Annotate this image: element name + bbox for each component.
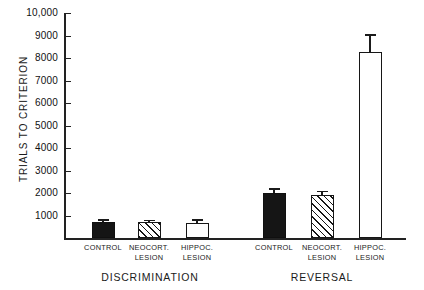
y-axis-tick-label: 10,000 <box>10 7 58 18</box>
bar-label-line1: HIPPOC. <box>354 243 386 252</box>
y-axis-tick <box>66 148 71 149</box>
group-label: REVERSAL <box>242 271 402 283</box>
plot-area <box>66 13 406 238</box>
y-axis-tick-label: 6000 <box>10 97 58 108</box>
bar <box>138 222 161 238</box>
y-axis-tick <box>66 81 71 82</box>
y-axis-tick-label: 8000 <box>10 52 58 63</box>
error-bar-cap <box>365 34 376 36</box>
bar-label-line1: CONTROL <box>84 243 122 252</box>
y-axis-tick-label: 4000 <box>10 142 58 153</box>
bar <box>311 195 334 238</box>
y-axis-tick-label: 1000 <box>10 210 58 221</box>
error-bar <box>359 34 382 52</box>
bar-label-line1: NEOCORT. <box>302 243 342 252</box>
y-axis-tick-label: 9000 <box>10 30 58 41</box>
y-axis-tick-label: 3000 <box>10 165 58 176</box>
y-axis-tick-label: 7000 <box>10 75 58 86</box>
error-bar-stem <box>369 34 371 52</box>
bar-label-line2: LESION <box>342 253 398 263</box>
y-axis-tick <box>66 171 71 172</box>
y-axis-tick <box>66 216 71 217</box>
bar-label-line1: NEOCORT. <box>129 243 169 252</box>
bar <box>263 193 286 238</box>
y-axis-tick-labels: 10,0009000800070006000500040003000200010… <box>8 13 58 239</box>
error-bar-cap <box>269 188 280 190</box>
y-axis-tick <box>66 13 71 14</box>
bar <box>92 222 115 238</box>
bar-label: HIPPOC.LESION <box>342 243 398 262</box>
bar-label-line2: LESION <box>169 253 225 263</box>
y-axis-tick <box>66 126 71 127</box>
y-axis-tick <box>66 36 71 37</box>
y-axis-tick-label: 2000 <box>10 187 58 198</box>
bar-label-line1: HIPPOC. <box>181 243 213 252</box>
error-bar-cap <box>98 219 109 221</box>
y-axis-tick <box>66 193 71 194</box>
bar-label: HIPPOC.LESION <box>169 243 225 262</box>
error-bar-cap <box>317 191 328 193</box>
error-bar-cap <box>144 220 155 222</box>
bar <box>186 223 209 238</box>
y-axis-tick <box>66 58 71 59</box>
group-label: DISCRIMINATION <box>70 271 230 283</box>
x-axis-line <box>64 238 406 240</box>
y-axis-tick <box>66 103 71 104</box>
bar-label-line1: CONTROL <box>255 243 293 252</box>
chart-figure: TRIALS TO CRITERION 10,00090008000700060… <box>0 0 424 290</box>
y-axis-tick-label: 5000 <box>10 120 58 131</box>
bar <box>359 52 382 238</box>
error-bar-cap <box>192 219 203 221</box>
